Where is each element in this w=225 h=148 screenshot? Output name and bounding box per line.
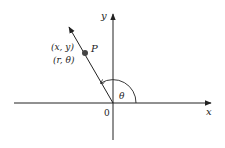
polar-coordinates-label: (r, θ): [53, 55, 75, 65]
angle-label: θ: [119, 91, 125, 101]
x-axis-label: x: [206, 106, 212, 117]
y-axis-label: y: [100, 10, 107, 21]
radius-ray: [69, 27, 113, 103]
cartesian-coordinates-label: (x, y): [51, 42, 74, 52]
origin-label: 0: [104, 108, 110, 118]
point-p-marker: [82, 50, 88, 56]
polar-coordinate-diagram: y x 0 θ P (x, y) (r, θ): [0, 0, 225, 148]
point-name-label: P: [90, 43, 98, 54]
